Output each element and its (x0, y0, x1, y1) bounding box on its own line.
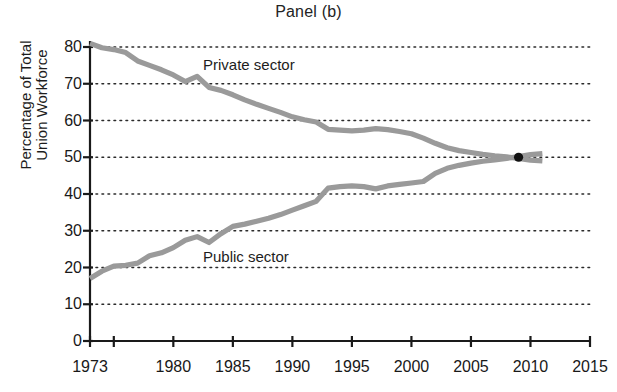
y-tick-label-40: 40 (38, 185, 82, 203)
series-line-private-sector (90, 43, 542, 161)
x-tick-label-2005: 2005 (453, 358, 489, 376)
x-tick-label-2010: 2010 (513, 358, 549, 376)
y-tick-label-70: 70 (38, 75, 82, 93)
chart-title: Panel (b) (0, 3, 617, 21)
plot-area (90, 47, 590, 341)
y-tick-label-60: 60 (38, 112, 82, 130)
y-axis-title-line-2: Union Workforce (34, 49, 50, 160)
series-line-public-sector (90, 154, 542, 279)
chart-figure: Panel (b) Percentage of Total Union Work… (0, 0, 617, 392)
plot-svg (90, 47, 590, 341)
x-tick-label-2015: 2015 (572, 358, 608, 376)
x-tick-label-1985: 1985 (215, 358, 251, 376)
crossover-point-marker (514, 153, 523, 162)
x-tick-label-1995: 1995 (334, 358, 370, 376)
y-tick-label-50: 50 (38, 148, 82, 166)
y-tick-label-0: 0 (38, 332, 82, 350)
x-tick-label-1980: 1980 (156, 358, 192, 376)
public-sector-label: Public sector (203, 248, 289, 265)
y-tick-label-10: 10 (38, 295, 82, 313)
x-tick-label-2000: 2000 (394, 358, 430, 376)
y-tick-label-80: 80 (38, 38, 82, 56)
x-tick-label-1990: 1990 (275, 358, 311, 376)
x-tick-label-1973: 1973 (72, 358, 108, 376)
y-tick-label-30: 30 (38, 222, 82, 240)
private-sector-label: Private sector (203, 56, 295, 73)
y-tick-label-20: 20 (38, 259, 82, 277)
y-axis-title-line-1: Percentage of Total (18, 41, 34, 170)
